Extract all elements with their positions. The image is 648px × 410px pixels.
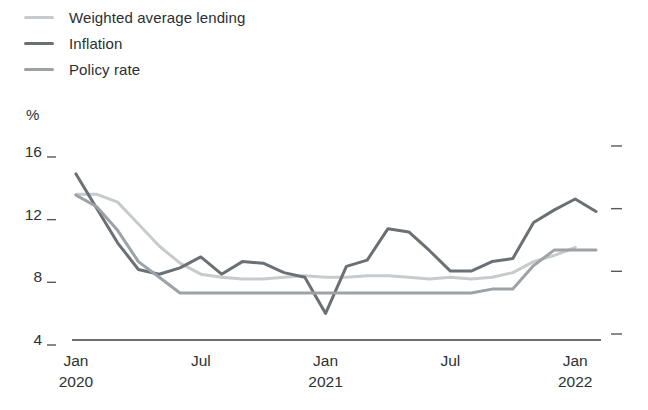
x-tick-label-Jul: Jul xyxy=(191,352,211,369)
legend-swatch-weighted-average-lending-icon xyxy=(24,16,54,19)
chart-legend: Weighted average lending Inflation Polic… xyxy=(24,8,245,79)
x-tick-label-Jul: Jul xyxy=(440,352,460,369)
x-tick-label-Jan2021: Jan2021 xyxy=(308,352,342,390)
y-tick-label-8: 8 xyxy=(33,268,42,285)
x-tick-label-Jan2020: Jan2020 xyxy=(59,352,94,390)
y-tick-label-16: 16 xyxy=(25,143,42,160)
y-tick-label-4: 4 xyxy=(33,331,42,348)
legend-item-inflation: Inflation xyxy=(24,34,245,53)
y-axis-unit-label: % xyxy=(26,106,39,123)
legend-label-inflation: Inflation xyxy=(69,35,122,52)
legend-label-weighted-average-lending: Weighted average lending xyxy=(69,9,245,26)
legend-item-policy-rate: Policy rate xyxy=(24,60,245,79)
legend-swatch-policy-rate-icon xyxy=(24,68,54,71)
legend-label-policy-rate: Policy rate xyxy=(69,61,140,78)
legend-swatch-inflation-icon xyxy=(24,42,54,45)
series-line-weighted-average-lending xyxy=(76,194,575,279)
x-tick-label-Jan2022: Jan2022 xyxy=(558,352,592,390)
legend-item-weighted-average-lending: Weighted average lending xyxy=(24,8,245,27)
line-chart-figure: Weighted average lending Inflation Polic… xyxy=(0,0,648,410)
y-tick-label-12: 12 xyxy=(25,206,42,223)
